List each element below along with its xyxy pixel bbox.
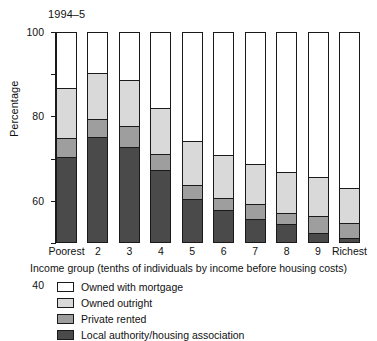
bar-segment	[340, 188, 359, 224]
stacked-bar[interactable]	[245, 32, 266, 243]
bar-segment	[57, 33, 76, 88]
legend-label: Owned outright	[81, 297, 152, 309]
bar-segment	[214, 33, 233, 155]
bar-segment	[340, 223, 359, 238]
legend-item[interactable]: Private rented	[57, 312, 244, 326]
bar-segment	[120, 80, 139, 126]
legend-label: Private rented	[81, 313, 146, 325]
bar-segment	[309, 216, 328, 233]
bar-segment	[120, 147, 139, 242]
bar-segment	[151, 108, 170, 154]
bar-segment	[120, 33, 139, 80]
bar-segment	[214, 155, 233, 198]
legend-label: Local authority/housing association	[81, 329, 244, 341]
bar-segment	[246, 164, 265, 205]
bar-segment	[151, 154, 170, 170]
x-axis-title: Income group (tenths of individuals by i…	[0, 262, 377, 274]
bar-segment	[88, 73, 107, 119]
bar-segment	[214, 210, 233, 242]
bar-segment	[151, 33, 170, 108]
bar-segment	[183, 141, 202, 185]
chart-legend: Owned with mortgageOwned outrightPrivate…	[57, 280, 244, 341]
bar-segment	[309, 177, 328, 216]
bar-segment	[277, 172, 296, 213]
plot-area: 020406080100	[56, 32, 360, 243]
bar-segment	[88, 119, 107, 138]
y-axis-tick-label: 100	[26, 27, 44, 38]
stacked-bar-chart-figure: 1994–5 Percentage 020406080100 Poorest23…	[0, 0, 377, 341]
legend-swatch	[57, 330, 74, 340]
bar-segment	[246, 219, 265, 242]
chart-title: 1994–5	[48, 8, 85, 20]
bar-segment	[340, 33, 359, 188]
bar-segment	[88, 137, 107, 242]
bar-segment	[277, 33, 296, 172]
bar-segment	[151, 170, 170, 242]
stacked-bar[interactable]	[56, 32, 77, 243]
bar-group	[56, 32, 360, 243]
stacked-bar[interactable]	[119, 32, 140, 243]
bar-segment	[309, 233, 328, 242]
legend-item[interactable]: Local authority/housing association	[57, 328, 244, 341]
bar-segment	[183, 33, 202, 141]
bar-segment	[277, 224, 296, 242]
stacked-bar[interactable]	[339, 32, 360, 243]
bar-segment	[246, 204, 265, 219]
bar-segment	[57, 157, 76, 242]
bar-segment	[277, 213, 296, 225]
bar-segment	[246, 33, 265, 164]
stacked-bar[interactable]	[182, 32, 203, 243]
bar-segment	[340, 238, 359, 242]
stacked-bar[interactable]	[213, 32, 234, 243]
bar-segment	[309, 33, 328, 177]
stacked-bar[interactable]	[308, 32, 329, 243]
legend-swatch	[57, 314, 74, 324]
legend-label: Owned with mortgage	[81, 281, 183, 293]
legend-swatch	[57, 298, 74, 308]
bar-segment	[183, 199, 202, 242]
y-axis-tick-label: 40	[32, 280, 44, 291]
y-axis-tick-label: 80	[32, 111, 44, 122]
stacked-bar[interactable]	[87, 32, 108, 243]
bar-segment	[183, 185, 202, 200]
legend-item[interactable]: Owned outright	[57, 296, 244, 310]
stacked-bar[interactable]	[276, 32, 297, 243]
bar-segment	[120, 126, 139, 147]
legend-swatch	[57, 282, 74, 292]
legend-item[interactable]: Owned with mortgage	[57, 280, 244, 294]
bar-segment	[57, 88, 76, 137]
y-axis-tick-label: 60	[32, 196, 44, 207]
bar-segment	[57, 138, 76, 158]
stacked-bar[interactable]	[150, 32, 171, 243]
bar-segment	[88, 33, 107, 73]
y-axis-title: Percentage	[8, 81, 20, 137]
bar-segment	[214, 198, 233, 210]
y-axis-tick: 0	[51, 243, 56, 244]
